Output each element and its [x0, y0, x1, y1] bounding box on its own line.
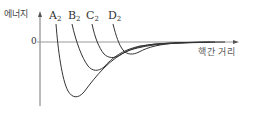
curve-label-b2: B2 [68, 10, 81, 23]
curve-label-b2-main: B [68, 9, 76, 22]
zero-label: 0 [31, 37, 37, 46]
curve-label-a2: A2 [49, 10, 61, 23]
curve-label-a2-main: A [49, 9, 57, 22]
curve-label-d2-sub: 2 [117, 15, 121, 23]
potential-energy-diagram: 에너지 0 핵간 거리 A2 B2 C2 D2 [0, 0, 256, 113]
curve-label-d2-main: D [108, 9, 117, 22]
x-axis-arrow-icon [233, 40, 239, 44]
curve-a2 [56, 24, 200, 97]
curve-label-d2: D2 [108, 10, 121, 23]
curve-c2 [92, 24, 215, 58]
curve-label-b2-sub: 2 [76, 15, 80, 23]
curve-label-c2: C2 [86, 10, 99, 23]
curve-label-a2-sub: 2 [57, 15, 61, 23]
curve-label-c2-sub: 2 [94, 15, 98, 23]
y-axis-arrow-icon [38, 11, 42, 17]
y-axis-label: 에너지 [4, 10, 28, 19]
x-axis-label: 핵간 거리 [198, 48, 235, 57]
